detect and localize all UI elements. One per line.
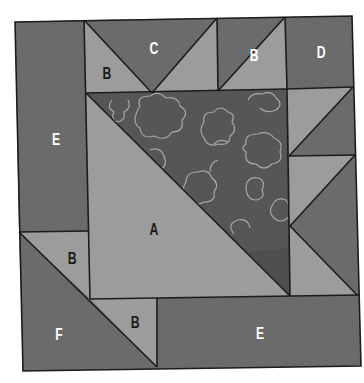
label-e-left: E: [52, 130, 60, 148]
label-b-bottom: B: [131, 313, 140, 331]
label-e-bottom: E: [256, 324, 264, 342]
label-f-corner: F: [55, 325, 62, 343]
label-b-top-right: B: [250, 46, 259, 64]
label-d-corner: D: [317, 43, 326, 61]
label-b-top-left: B: [103, 64, 112, 82]
label-c-top: C: [150, 39, 159, 57]
label-a-center: A: [150, 220, 159, 238]
quilt-block-diagram: E B C B D A B F B E: [0, 0, 364, 383]
label-b-lower-left: B: [68, 249, 77, 267]
piece-e-left: [15, 20, 88, 232]
